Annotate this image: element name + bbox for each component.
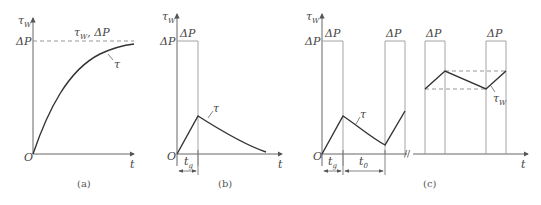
origin-label: O — [167, 150, 176, 163]
y-tick-deltaP: ΔP — [159, 35, 176, 48]
x-axis-label: t — [521, 158, 526, 171]
pulse-label-2: ΔP — [385, 27, 402, 40]
figure-canvas: τW ΔP τW, ΔP τ O t (a) τW ΔP ΔP τ O t tg… — [0, 0, 541, 205]
curve-leader — [108, 54, 113, 60]
interval-tg-label: tg — [184, 155, 193, 170]
tau-curve — [177, 116, 266, 154]
curve-label: τ — [360, 108, 367, 121]
y-axis-label: τW — [162, 10, 176, 25]
curve-label: τ — [213, 102, 220, 115]
y-tick-deltaP: ΔP — [304, 35, 321, 48]
caption-a: (a) — [77, 178, 91, 189]
interval-t0-label: t0 — [359, 155, 368, 170]
panel-c: τW ΔP ΔP ΔP ΔP ΔP τ // τW O t tg t0 (c) — [304, 10, 528, 189]
dashed-line-label: τW, ΔP — [74, 26, 110, 41]
x-axis-label: t — [130, 158, 135, 171]
y-axis-label: τW — [306, 10, 320, 25]
curve-label: τ — [114, 58, 121, 71]
panel-a: τW ΔP τW, ΔP τ O t (a) — [15, 14, 135, 189]
pulse-label-4: ΔP — [486, 27, 503, 40]
panel-b: τW ΔP ΔP τ O t tg (b) — [159, 10, 283, 189]
pressure-pulse-2 — [385, 41, 405, 154]
steady-label: τW — [493, 92, 507, 107]
y-tick-deltaP: ΔP — [15, 35, 32, 48]
tau-steady-curve — [425, 71, 506, 89]
origin-label: O — [313, 150, 322, 163]
x-axis-label: t — [278, 158, 283, 171]
interval-tg-label: tg — [328, 155, 337, 170]
pulse-label-1: ΔP — [324, 27, 341, 40]
pressure-pulse-3 — [425, 41, 445, 154]
pulse-label: ΔP — [179, 27, 196, 40]
caption-b: (b) — [218, 178, 232, 189]
origin-label: O — [24, 151, 33, 164]
caption-c: (c) — [423, 178, 437, 189]
y-axis-label: τW — [18, 14, 32, 29]
pulse-label-3: ΔP — [425, 27, 442, 40]
axis-break-mark: // — [404, 149, 411, 159]
